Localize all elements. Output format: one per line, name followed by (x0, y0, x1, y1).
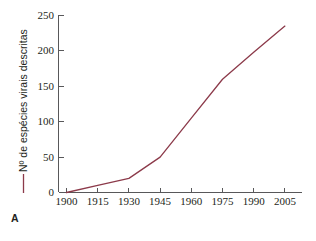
line-chart: 0 50 100 150 200 250 1900 1915 1930 1945… (0, 0, 316, 241)
y-tick-label: 0 (49, 186, 55, 198)
x-tick-label: 2005 (274, 195, 297, 207)
x-tick-label: 1945 (149, 195, 172, 207)
x-tick-label: 1915 (87, 195, 110, 207)
y-tick-label: 250 (38, 9, 55, 21)
y-tick-label: 150 (38, 80, 55, 92)
figure-panel-a: 0 50 100 150 200 250 1900 1915 1930 1945… (0, 0, 316, 241)
x-tick-label: 1975 (212, 195, 235, 207)
panel-letter-label: A (11, 212, 19, 224)
x-tick-label: 1990 (243, 195, 266, 207)
x-tick-label: 1960 (180, 195, 203, 207)
y-tick-label: 100 (38, 115, 55, 127)
y-tick-label: 50 (43, 151, 55, 163)
x-tick-label: 1930 (118, 195, 141, 207)
y-tick-label: 200 (38, 44, 55, 56)
y-axis-title: Nº de espécies virais descritas (17, 29, 29, 172)
x-tick-label: 1900 (56, 195, 79, 207)
